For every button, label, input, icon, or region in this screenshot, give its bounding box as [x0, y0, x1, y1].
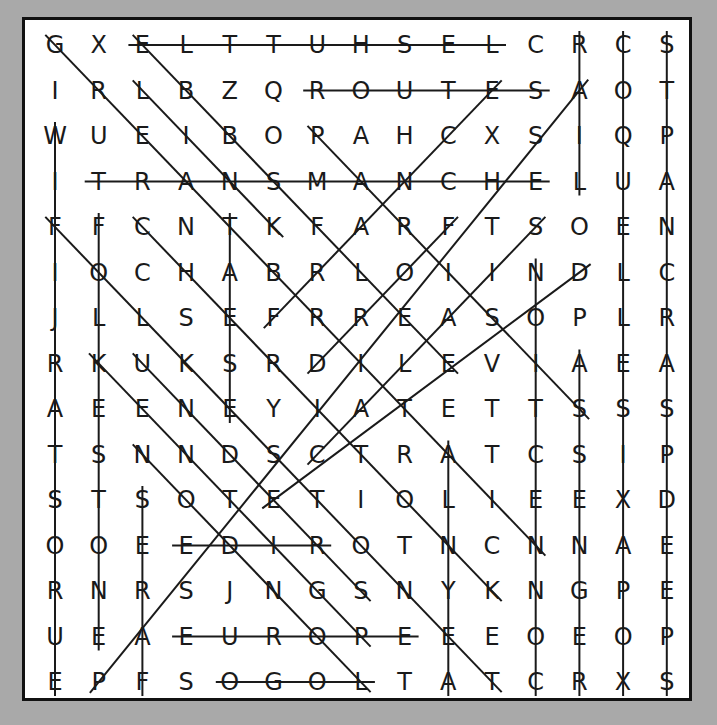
grid-cell[interactable]: C [516, 662, 556, 702]
grid-cell[interactable]: A [559, 344, 599, 384]
grid-cell[interactable]: E [385, 617, 425, 657]
grid-cell[interactable]: T [297, 480, 337, 520]
grid-cell[interactable]: T [647, 71, 687, 111]
grid-cell[interactable]: C [122, 207, 162, 247]
grid-cell[interactable]: E [122, 25, 162, 65]
grid-cell[interactable]: B [166, 71, 206, 111]
grid-cell[interactable]: Q [254, 71, 294, 111]
grid-cell[interactable]: E [516, 480, 556, 520]
grid-cell[interactable]: E [472, 71, 512, 111]
grid-cell[interactable]: F [428, 207, 468, 247]
grid-cell[interactable]: O [166, 480, 206, 520]
grid-cell[interactable]: R [297, 253, 337, 293]
grid-cell[interactable]: U [122, 344, 162, 384]
grid-cell[interactable]: F [79, 207, 119, 247]
grid-cell[interactable]: T [516, 389, 556, 429]
grid-cell[interactable]: Y [254, 389, 294, 429]
grid-cell[interactable]: O [385, 253, 425, 293]
grid-cell[interactable]: N [428, 526, 468, 566]
grid-cell[interactable]: E [35, 662, 75, 702]
grid-cell[interactable]: L [79, 298, 119, 338]
grid-cell[interactable]: G [297, 571, 337, 611]
grid-cell[interactable]: I [341, 344, 381, 384]
grid-cell[interactable]: L [341, 253, 381, 293]
grid-cell[interactable]: U [35, 617, 75, 657]
grid-cell[interactable]: R [647, 298, 687, 338]
grid-cell[interactable]: Y [428, 571, 468, 611]
grid-cell[interactable]: O [210, 662, 250, 702]
grid-cell[interactable]: P [647, 435, 687, 475]
grid-cell[interactable]: S [647, 662, 687, 702]
grid-cell[interactable]: A [428, 435, 468, 475]
grid-cell[interactable]: L [122, 298, 162, 338]
grid-cell[interactable]: S [166, 298, 206, 338]
grid-cell[interactable]: I [341, 480, 381, 520]
grid-cell[interactable]: R [385, 207, 425, 247]
grid-cell[interactable]: S [254, 162, 294, 202]
grid-cell[interactable]: E [122, 526, 162, 566]
grid-cell[interactable]: R [341, 298, 381, 338]
grid-cell[interactable]: T [79, 162, 119, 202]
grid-cell[interactable]: U [79, 116, 119, 156]
grid-cell[interactable]: E [603, 344, 643, 384]
grid-cell[interactable]: A [559, 71, 599, 111]
grid-cell[interactable]: O [603, 71, 643, 111]
grid-cell[interactable]: N [166, 435, 206, 475]
grid-cell[interactable]: G [35, 25, 75, 65]
grid-cell[interactable]: B [210, 116, 250, 156]
grid-cell[interactable]: E [210, 298, 250, 338]
grid-cell[interactable]: R [122, 571, 162, 611]
grid-cell[interactable]: P [297, 116, 337, 156]
grid-cell[interactable]: Q [603, 116, 643, 156]
grid-cell[interactable]: A [341, 389, 381, 429]
grid-cell[interactable]: T [79, 480, 119, 520]
grid-cell[interactable]: S [341, 571, 381, 611]
grid-cell[interactable]: E [166, 526, 206, 566]
grid-cell[interactable]: N [166, 207, 206, 247]
grid-cell[interactable]: A [428, 298, 468, 338]
grid-cell[interactable]: O [341, 526, 381, 566]
grid-cell[interactable]: O [559, 207, 599, 247]
grid-cell[interactable]: N [516, 526, 556, 566]
grid-cell[interactable]: L [428, 480, 468, 520]
grid-cell[interactable]: N [647, 207, 687, 247]
grid-cell[interactable]: S [516, 116, 556, 156]
grid-cell[interactable]: C [428, 116, 468, 156]
grid-cell[interactable]: R [79, 71, 119, 111]
grid-cell[interactable]: S [647, 25, 687, 65]
grid-cell[interactable]: C [647, 253, 687, 293]
grid-cell[interactable]: D [647, 480, 687, 520]
grid-cell[interactable]: R [35, 344, 75, 384]
grid-cell[interactable]: T [385, 389, 425, 429]
grid-cell[interactable]: O [254, 116, 294, 156]
grid-cell[interactable]: F [122, 662, 162, 702]
grid-cell[interactable]: D [210, 435, 250, 475]
grid-cell[interactable]: O [603, 617, 643, 657]
grid-cell[interactable]: P [647, 116, 687, 156]
grid-cell[interactable]: K [472, 571, 512, 611]
grid-cell[interactable]: E [647, 571, 687, 611]
grid-cell[interactable]: B [254, 253, 294, 293]
grid-cell[interactable]: C [516, 25, 556, 65]
grid-cell[interactable]: N [385, 162, 425, 202]
grid-cell[interactable]: N [385, 571, 425, 611]
grid-cell[interactable]: L [385, 344, 425, 384]
grid-cell[interactable]: H [385, 116, 425, 156]
grid-cell[interactable]: T [472, 435, 512, 475]
grid-cell[interactable]: H [472, 162, 512, 202]
grid-cell[interactable]: E [647, 526, 687, 566]
grid-cell[interactable]: N [516, 253, 556, 293]
grid-cell[interactable]: T [472, 207, 512, 247]
grid-cell[interactable]: D [297, 344, 337, 384]
grid-cell[interactable]: K [79, 344, 119, 384]
grid-cell[interactable]: S [210, 344, 250, 384]
grid-cell[interactable]: A [210, 253, 250, 293]
grid-cell[interactable]: T [385, 662, 425, 702]
grid-cell[interactable]: I [603, 435, 643, 475]
grid-cell[interactable]: T [428, 71, 468, 111]
grid-cell[interactable]: T [35, 435, 75, 475]
grid-cell[interactable]: I [254, 526, 294, 566]
grid-cell[interactable]: E [122, 116, 162, 156]
grid-cell[interactable]: P [647, 617, 687, 657]
grid-cell[interactable]: T [210, 25, 250, 65]
